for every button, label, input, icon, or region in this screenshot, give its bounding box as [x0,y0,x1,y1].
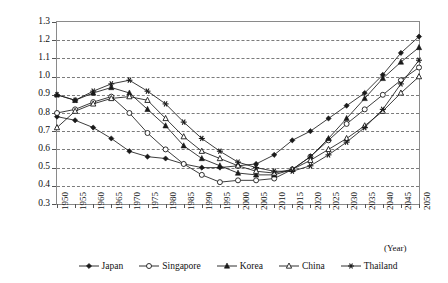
x-axis-tick-label: 2015 [296,192,305,210]
x-axis-tick-label: 2035 [368,192,377,210]
data-point-marker [163,147,168,152]
x-axis-tick-mark [129,204,130,208]
y-axis-tick-label: 0.4 [24,180,50,190]
data-point-marker [417,65,422,70]
x-axis-tick-mark [365,204,366,208]
series-thailand [54,58,422,174]
x-axis-tick-label: 1965 [115,192,124,210]
x-axis-tick-label: 1955 [79,192,88,210]
x-axis-tick-mark [292,204,293,208]
y-axis-tick-label: 0.7 [24,126,50,136]
data-point-marker [380,92,385,97]
y-axis-tick-label: 1.3 [24,17,50,27]
x-axis-tick-label: 1970 [133,192,142,210]
data-point-marker [163,156,168,161]
data-point-marker [55,111,60,116]
data-point-marker [236,178,241,183]
x-axis-tick-label: 2030 [350,192,359,210]
x-axis-tick-label: 2005 [260,192,269,210]
series-japan [54,34,421,170]
data-point-marker [416,58,422,63]
x-axis-tick-label: 2045 [404,192,413,210]
legend-marker-icon [279,261,299,271]
x-axis-tick-mark [148,204,149,208]
data-point-marker [145,154,150,159]
legend-item-label: Thailand [363,261,398,271]
legend-item-thailand: Thailand [341,261,398,271]
x-axis-tick-label: 2040 [386,192,395,210]
legend-item-label: Japan [101,261,124,271]
y-axis-tick-label: 0.5 [24,162,50,172]
x-axis-tick-mark [401,204,402,208]
x-axis-unit-label: (Year) [384,243,407,253]
series-layer [57,22,419,204]
data-point-marker [199,156,204,161]
x-axis-tick-mark [93,204,94,208]
x-axis-tick-label: 1990 [205,192,214,210]
x-axis-tick-label: 2020 [314,192,323,210]
y-axis-tick-label: 1.0 [24,71,50,81]
y-axis-tick-label: 0.9 [24,89,50,99]
data-point-marker [217,180,222,185]
data-point-marker [145,131,150,136]
x-axis-tick-mark [238,204,239,208]
x-axis-tick-label: 1960 [97,192,106,210]
data-point-marker [326,146,331,151]
x-axis-tick-mark [220,204,221,208]
x-axis-tick-mark [310,204,311,208]
legend-item-china: China [279,261,325,271]
data-point-marker [344,121,349,126]
legend-marker-icon [139,261,159,271]
legend-item-singapore: Singapore [139,261,201,271]
legend-marker-icon [341,261,361,271]
y-axis-tick-label: 1.1 [24,53,50,63]
x-axis-tick-mark [256,204,257,208]
y-axis-tick-label: 0.3 [24,199,50,209]
legend-item-korea: Korea [217,261,263,271]
y-axis-title-wrapper: Dependency ratio of population [10,24,24,204]
x-axis-tick-label: 1950 [61,192,70,210]
series-line [57,60,419,171]
data-point-marker [91,125,96,130]
x-axis-tick-label: 1980 [169,192,178,210]
x-axis-tick-mark [111,204,112,208]
x-axis-tick-label: 1985 [187,192,196,210]
series-line [57,37,419,168]
data-point-marker [308,129,313,134]
x-axis-tick-label: 1975 [151,192,160,210]
chart-legend: JapanSingaporeKoreaChinaThailand [56,258,420,274]
data-point-marker [73,118,78,123]
data-point-marker [307,163,313,168]
dependency-ratio-chart: Dependency ratio of population 0.30.40.5… [0,0,448,283]
data-point-marker [398,59,403,64]
data-point-marker [416,74,421,79]
x-axis-tick-mark [202,204,203,208]
data-point-marker [199,172,204,177]
x-axis-tick-mark [166,204,167,208]
x-axis-tick-mark [329,204,330,208]
legend-item-label: Korea [239,261,263,271]
plot-area [56,21,420,205]
x-axis-tick-label: 2050 [423,192,432,210]
legend-marker-icon [79,261,99,271]
data-point-marker [199,148,204,153]
legend-item-label: China [301,261,325,271]
data-point-marker [254,178,259,183]
legend-item-japan: Japan [79,261,124,271]
data-point-marker [109,136,114,141]
legend-marker-icon [217,261,237,271]
x-axis-tick-mark [383,204,384,208]
x-axis-tick-mark [419,204,420,208]
x-axis-tick-label: 1995 [223,192,232,210]
x-axis-tick-mark [75,204,76,208]
x-axis-tick-mark [274,204,275,208]
y-axis-tick-label: 0.6 [24,144,50,154]
data-point-marker [344,103,349,108]
x-axis-tick-mark [57,204,58,208]
data-point-marker [416,44,421,49]
data-point-marker [127,111,132,116]
data-point-marker [126,78,132,83]
y-axis-tick-label: 1.2 [24,35,50,45]
data-point-marker [181,161,186,166]
data-point-marker [109,85,114,90]
